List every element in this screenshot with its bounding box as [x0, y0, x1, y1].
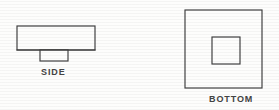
side-body-rect: [17, 26, 95, 50]
view-label-side: SIDE: [41, 66, 66, 77]
bottom-view-group: [185, 10, 262, 88]
view-label-bottom: BOTTOM: [209, 93, 253, 104]
sketch-canvas: SIDE BOTTOM: [0, 0, 279, 110]
bottom-inner-square: [212, 37, 240, 64]
side-boss-rect: [40, 50, 68, 61]
side-view-group: [17, 26, 95, 61]
